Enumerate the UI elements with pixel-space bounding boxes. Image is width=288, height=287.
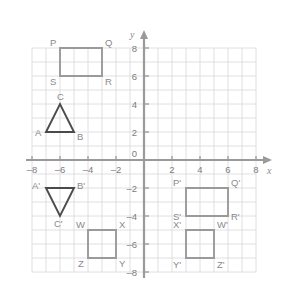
y-tick-label: –8 bbox=[126, 267, 137, 278]
vertex-label-x-prime: X' bbox=[173, 219, 181, 230]
y-tick-label: –4 bbox=[126, 211, 137, 222]
vertex-label-p: P bbox=[50, 37, 56, 48]
x-tick-label: 2 bbox=[169, 164, 174, 175]
y-tick-label: 8 bbox=[132, 43, 137, 54]
vertex-label-x: X bbox=[119, 219, 126, 230]
y-tick-label: 6 bbox=[132, 71, 137, 82]
x-tick-label: –4 bbox=[83, 164, 94, 175]
x-tick-label: 4 bbox=[197, 164, 202, 175]
vertex-label-b-prime: B' bbox=[77, 180, 85, 191]
x-tick-label: –6 bbox=[55, 164, 66, 175]
coordinate-plane-figure: –8–6–4–224688642–2–4–6–80 PQRSABCA'B'C'W… bbox=[0, 0, 288, 287]
origin-label: 0 bbox=[132, 148, 137, 159]
shape-layer bbox=[46, 48, 228, 258]
vertex-label-a: A bbox=[35, 127, 42, 138]
vertex-label-z-prime: Z' bbox=[217, 259, 225, 270]
vertex-label-r: R bbox=[105, 76, 112, 87]
vertex-label-y: Y bbox=[119, 258, 126, 269]
vertex-label-a-prime: A' bbox=[32, 180, 40, 191]
y-tick-label: 2 bbox=[132, 127, 137, 138]
vertex-label-c: C bbox=[57, 91, 64, 102]
y-axis-title: y bbox=[129, 29, 135, 40]
y-axis-arrowhead bbox=[140, 30, 148, 39]
y-tick-label: 4 bbox=[132, 99, 137, 110]
x-tick-label: –8 bbox=[27, 164, 38, 175]
axis-layer bbox=[26, 30, 272, 278]
y-tick-label: –2 bbox=[126, 183, 137, 194]
vertex-label-y-prime: Y' bbox=[173, 259, 181, 270]
x-tick-label: –2 bbox=[111, 164, 122, 175]
x-tick-label: 8 bbox=[253, 164, 258, 175]
vertex-label-c-prime: C' bbox=[54, 218, 63, 229]
x-tick-label: 6 bbox=[225, 164, 230, 175]
x-axis-title: x bbox=[266, 165, 272, 176]
vertex-label-p-prime: P' bbox=[173, 177, 181, 188]
vertex-label-q-prime: Q' bbox=[231, 177, 240, 188]
y-tick-label: –6 bbox=[126, 239, 137, 250]
vertex-label-q: Q bbox=[105, 37, 112, 48]
vertex-label-z: Z bbox=[78, 258, 84, 269]
vertex-label-w: W bbox=[76, 219, 85, 230]
x-axis-arrowhead bbox=[263, 156, 272, 164]
coordinate-plane-svg: –8–6–4–224688642–2–4–6–80 PQRSABCA'B'C'W… bbox=[0, 0, 288, 287]
vertex-label-b: B bbox=[77, 131, 83, 142]
axis-title-layer: xy bbox=[129, 29, 272, 176]
vertex-label-r-prime: R' bbox=[231, 211, 240, 222]
vertex-label-w-prime: W' bbox=[217, 219, 228, 230]
vertex-label-s: S bbox=[50, 76, 56, 87]
